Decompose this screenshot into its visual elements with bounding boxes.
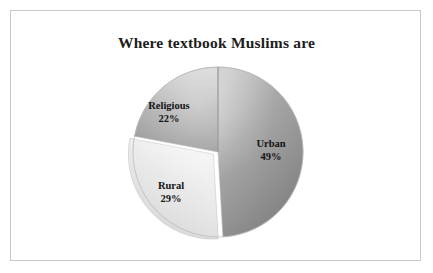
pie-chart: Religious 22% Urban 49% Rural 29% xyxy=(0,0,433,273)
chart-figure: Where textbook Muslims are xyxy=(0,0,433,273)
pie-svg xyxy=(0,0,433,273)
